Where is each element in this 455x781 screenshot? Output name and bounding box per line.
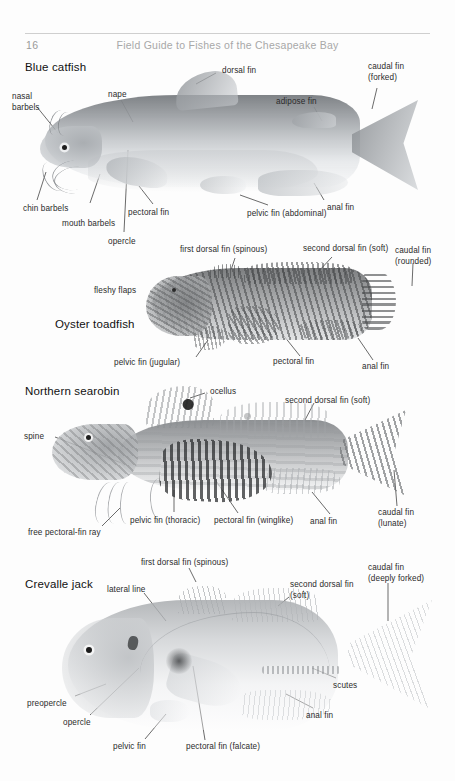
label-chin-barbels: chin barbels (23, 204, 68, 215)
label-caudal-fin: caudal fin(deeply forked) (368, 563, 424, 584)
label-caudal-fin: caudal fin(rounded) (395, 246, 431, 267)
catfish-eye (62, 145, 67, 150)
label-fleshy-flaps: fleshy flaps (94, 286, 136, 297)
label-anal-fin: anal fin (362, 362, 389, 373)
label-pectoral-fin: pectoral fin (winglike) (214, 516, 293, 527)
label-pelvic-fin: pelvic fin (abdominal) (247, 209, 327, 220)
label-free-pectoral-fin-ray: free pectoral-fin ray (28, 528, 101, 539)
label-pectoral-fin: pectoral fin (128, 208, 169, 219)
label-caudal-fin: caudal fin(forked) (368, 62, 404, 83)
fish-name-northern-searobin: Northern searobin (25, 385, 120, 397)
label-ocellus: ocellus (210, 387, 236, 398)
label-opercle: opercle (108, 237, 136, 248)
label-lateral-line: lateral line (107, 585, 146, 596)
fish-name-crevalle-jack: Crevalle jack (25, 578, 93, 590)
label-nape: nape (108, 90, 127, 101)
searobin-eye (86, 435, 91, 440)
label-second-dorsal-fin: second dorsal fin (soft) (285, 396, 370, 407)
label-anal-fin: anal fin (306, 711, 333, 722)
fish-name-oyster-toadfish: Oyster toadfish (55, 318, 135, 330)
label-pelvic-fin: pelvic fin (113, 742, 146, 753)
label-first-dorsal-fin: first dorsal fin (spinous) (141, 558, 228, 569)
label-pectoral-fin: pectoral fin (273, 357, 314, 368)
field-guide-page: 16 Field Guide to Fishes of the Chesapea… (0, 0, 455, 781)
label-second-dorsal-fin: second dorsal fin(soft) (290, 580, 354, 601)
label-second-dorsal-fin: second dorsal fin (soft) (303, 244, 388, 255)
running-head: Field Guide to Fishes of the Chesapeake … (0, 39, 455, 51)
header-rule (25, 33, 430, 34)
label-scutes: scutes (333, 681, 357, 692)
label-spine: spine (24, 432, 44, 443)
toadfish-eye (172, 288, 176, 292)
jack-eye (86, 647, 92, 653)
label-preopercle: preopercle (27, 699, 67, 710)
label-mouth-barbels: mouth barbels (62, 219, 115, 230)
label-pelvic-fin: pelvic fin (jugular) (114, 358, 180, 369)
label-dorsal-fin: dorsal fin (222, 66, 256, 77)
label-anal-fin: anal fin (310, 517, 337, 528)
label-pelvic-fin: pelvic fin (thoracic) (130, 516, 200, 527)
label-anal-fin: anal fin (327, 203, 354, 214)
label-first-dorsal-fin: first dorsal fin (spinous) (180, 245, 267, 256)
label-adipose-fin: adipose fin (276, 97, 317, 108)
label-nasal-barbels: nasalbarbels (12, 92, 40, 113)
label-caudal-fin: caudal fin(lunate) (378, 508, 414, 529)
label-pectoral-fin: pectoral fin (falcate) (186, 742, 260, 753)
label-opercle: opercle (63, 718, 91, 729)
fish-name-blue-catfish: Blue catfish (25, 61, 86, 73)
